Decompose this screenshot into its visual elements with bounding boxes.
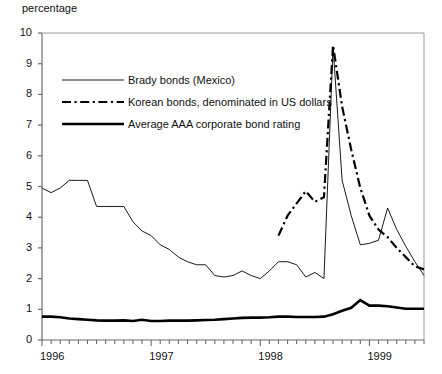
plot-area: [0, 0, 442, 374]
y-tick-label-10: 10: [6, 27, 32, 38]
y-tick-label-5: 5: [6, 181, 32, 192]
x-tick-label-1997: 1997: [149, 351, 173, 362]
percentage-line-chart: percentage 012345678910 1996199719981999…: [0, 0, 442, 374]
y-tick-label-7: 7: [6, 119, 32, 130]
x-tick-label-1999: 1999: [367, 351, 391, 362]
x-tick-label-1998: 1998: [258, 351, 282, 362]
y-tick-label-1: 1: [6, 303, 32, 314]
x-tick-label-1996: 1996: [40, 351, 64, 362]
series-line-2: [42, 300, 424, 321]
legend-label-korean: Korean bonds, denominated in US dollars: [128, 96, 332, 108]
y-tick-label-8: 8: [6, 88, 32, 99]
y-tick-label-3: 3: [6, 242, 32, 253]
legend-swatches: [62, 80, 124, 124]
y-tick-label-2: 2: [6, 273, 32, 284]
y-tick-label-4: 4: [6, 211, 32, 222]
y-tick-label-6: 6: [6, 150, 32, 161]
legend-label-aaa: Average AAA corporate bond rating: [128, 118, 300, 130]
y-tick-label-0: 0: [6, 334, 32, 345]
legend-label-brady: Brady bonds (Mexico): [128, 74, 235, 86]
x-tick-marks: [42, 340, 424, 346]
series-line-1: [278, 45, 424, 269]
data-series-group: [42, 45, 424, 321]
y-tick-label-9: 9: [6, 58, 32, 69]
